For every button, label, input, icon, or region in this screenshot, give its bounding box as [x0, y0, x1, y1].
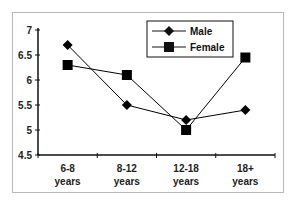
data-point-square	[240, 53, 250, 63]
legend-label-female: Female	[190, 42, 225, 53]
x-category-label: 12-18	[173, 163, 199, 174]
data-point-diamond	[181, 115, 191, 125]
x-category-label: 18+	[237, 163, 254, 174]
y-tick-label: 6.5	[18, 50, 32, 61]
legend-label-male: Male	[190, 26, 213, 37]
data-point-square	[181, 125, 191, 135]
x-category-label: years	[173, 176, 200, 187]
data-point-square	[63, 60, 73, 70]
series-female	[63, 53, 251, 136]
y-tick-label: 7	[26, 25, 32, 36]
x-category-label: years	[114, 176, 141, 187]
data-point-diamond	[240, 105, 250, 115]
y-tick-label: 5	[26, 125, 32, 136]
x-category-label: years	[232, 176, 259, 187]
y-tick-label: 5.5	[18, 100, 32, 111]
legend: Male Female	[147, 21, 233, 57]
x-category-label: years	[55, 176, 82, 187]
y-tick-label: 6	[26, 75, 32, 86]
line-chart: 4.555.566.576-8years8-12years12-18years1…	[0, 0, 293, 204]
square-marker-icon	[164, 42, 174, 52]
y-tick-label: 4.5	[18, 150, 32, 161]
x-category-label: 6-8	[60, 163, 75, 174]
x-category-label: 8-12	[117, 163, 137, 174]
data-point-square	[122, 70, 132, 80]
